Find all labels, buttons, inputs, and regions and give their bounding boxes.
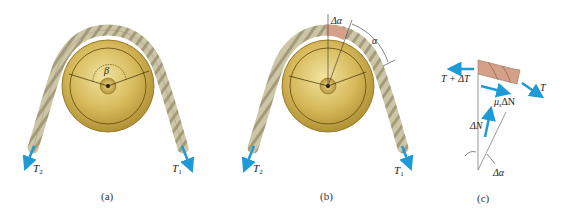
force-arrow-normal <box>485 113 490 137</box>
rope-element <box>478 60 520 84</box>
delta-alpha-label: Δα <box>492 167 505 178</box>
angle-beta-label: β <box>103 65 109 76</box>
caption-b: (b) <box>320 190 333 203</box>
t1-label: T1 <box>394 164 404 178</box>
caption-c: (c) <box>477 192 490 205</box>
panel-a: β T2 T1 (a) <box>27 30 190 203</box>
panel-c: T + ΔT T μsΔN ΔN Δα (c) <box>441 60 547 205</box>
rope-element-highlight <box>326 30 346 35</box>
panel-b: Δα α T2 T1 (b) <box>246 14 409 203</box>
alpha-label: α <box>372 35 378 46</box>
belt-friction-diagram: β T2 T1 (a) Δα α T2 T1 (b) <box>0 0 573 219</box>
delta-alpha-label: Δα <box>330 15 343 26</box>
force-arrow-t <box>522 83 538 94</box>
normal-label: ΔN <box>469 120 484 131</box>
t-label: T <box>540 82 547 93</box>
t1-label: T1 <box>172 162 182 176</box>
friction-label: μsΔN <box>493 96 515 108</box>
t-plus-delta-t-label: T + ΔT <box>441 73 471 84</box>
t2-label: T2 <box>253 162 263 176</box>
t2-label: T2 <box>33 162 43 176</box>
force-arrow-friction <box>481 86 504 92</box>
caption-a: (a) <box>101 190 114 203</box>
